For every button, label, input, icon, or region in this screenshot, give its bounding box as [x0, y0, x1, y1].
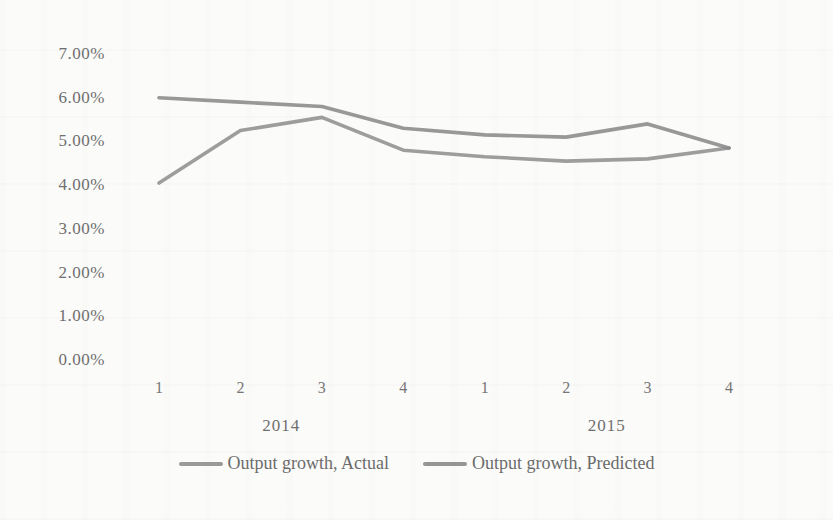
year-label: 2015 [588, 416, 626, 436]
y-tick-label: 7.00% [0, 43, 105, 65]
y-tick-label: 2.00% [0, 262, 105, 284]
x-tick-label: 4 [399, 379, 407, 397]
legend-line-swatch-predicted [423, 462, 467, 466]
series-line-predicted [159, 98, 729, 148]
y-tick-label: 0.00% [0, 349, 105, 371]
y-tick-label: 4.00% [0, 174, 105, 196]
legend-label-predicted: Output growth, Predicted [472, 453, 654, 474]
y-tick-label: 1.00% [0, 305, 105, 327]
legend-label-actual: Output growth, Actual [228, 453, 389, 474]
x-tick-label: 3 [644, 379, 652, 397]
legend-line-swatch-actual [179, 462, 223, 466]
x-tick-label: 2 [562, 379, 570, 397]
line-plot [0, 0, 833, 520]
x-tick-label: 1 [155, 379, 163, 397]
y-tick-label: 3.00% [0, 218, 105, 240]
x-tick-label: 4 [725, 379, 733, 397]
series-line-actual [159, 117, 729, 183]
x-tick-label: 1 [481, 379, 489, 397]
scanned-chart-page: 0.00%1.00%2.00%3.00%4.00%5.00%6.00%7.00%… [0, 0, 833, 520]
year-label: 2014 [262, 416, 300, 436]
x-tick-label: 3 [318, 379, 326, 397]
y-tick-label: 6.00% [0, 87, 105, 109]
legend-item-predicted: Output growth, Predicted [423, 453, 654, 474]
x-tick-label: 2 [236, 379, 244, 397]
legend-item-actual: Output growth, Actual [179, 453, 389, 474]
y-tick-label: 5.00% [0, 130, 105, 152]
chart-legend: Output growth, Actual Output growth, Pre… [0, 453, 833, 474]
